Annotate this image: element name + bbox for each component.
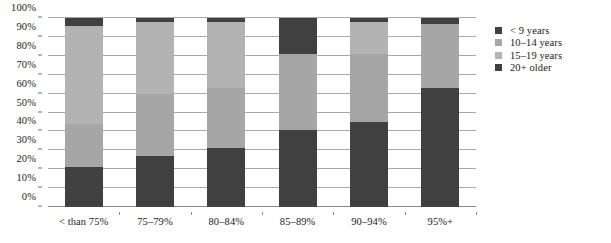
bar-stack: [350, 18, 388, 207]
x-axis: < than 75%75–79%80–84%85–89%90–94%95%+: [48, 212, 476, 232]
stacked-bar-chart: 0%10%20%30%40%50%60%70%80%90%100% < than…: [0, 0, 611, 243]
bar-stack: [136, 18, 174, 207]
y-axis-tick-mark: [38, 35, 42, 36]
legend-swatch-icon: [495, 27, 502, 34]
bar-column: [65, 18, 103, 207]
x-axis-tick-mark: [119, 212, 120, 215]
y-axis-tick-label: 90%: [16, 20, 36, 31]
bar-segment: [421, 18, 459, 24]
legend-item[interactable]: 15–19 years: [495, 49, 607, 62]
bar-segment: [350, 18, 388, 22]
bar-segment: [65, 26, 103, 124]
bar-stack: [421, 18, 459, 207]
legend-item-label: 15–19 years: [510, 50, 562, 61]
bar-segment: [421, 24, 459, 88]
legend-item-label: 20+ older: [510, 62, 552, 73]
y-axis-tick-mark: [38, 73, 42, 74]
y-axis-tick-label: 80%: [16, 39, 36, 50]
bar-segment: [207, 88, 245, 148]
legend-swatch-icon: [495, 39, 502, 46]
bar-column: [136, 18, 174, 207]
bar-stack: [279, 18, 317, 207]
bar-segment: [421, 88, 459, 207]
bar-segment: [279, 18, 317, 54]
y-axis-tick-label: 70%: [16, 58, 36, 69]
y-axis-tick-label: 0%: [22, 191, 36, 202]
legend-item-label: 10–14 years: [510, 37, 562, 48]
bar-segment: [136, 94, 174, 156]
y-axis-tick-mark: [38, 17, 42, 18]
bar-segment: [207, 18, 245, 22]
y-axis-tick-label: 100%: [11, 2, 36, 13]
bar-segment: [136, 156, 174, 207]
plot-area: [48, 18, 476, 207]
y-axis-tick-mark: [38, 54, 42, 55]
bar-segment: [65, 167, 103, 207]
y-axis-tick-mark: [38, 111, 42, 112]
y-axis-tick-mark: [38, 92, 42, 93]
bar-segment: [65, 124, 103, 167]
bar-stack: [207, 18, 245, 207]
y-axis-tick-label: 50%: [16, 96, 36, 107]
bar-segment: [136, 22, 174, 94]
legend-item[interactable]: < 9 years: [495, 24, 607, 37]
bar-segment: [279, 130, 317, 207]
x-axis-tick-mark: [333, 212, 334, 215]
y-axis-tick-mark: [38, 130, 42, 131]
y-axis-tick-mark: [38, 187, 42, 188]
legend-swatch-icon: [495, 52, 502, 59]
x-axis-tick-label: 95%+: [428, 216, 454, 227]
x-axis-tick-mark: [405, 212, 406, 215]
bar-column: [279, 18, 317, 207]
y-axis-tick-label: 30%: [16, 134, 36, 145]
y-axis-tick-label: 20%: [16, 153, 36, 164]
bar-series-group: [48, 18, 476, 207]
x-axis-tick-label: 85–89%: [280, 216, 316, 227]
bar-column: [350, 18, 388, 207]
y-axis-tick-mark: [38, 149, 42, 150]
legend-item[interactable]: 10–14 years: [495, 37, 607, 50]
chart-legend: < 9 years10–14 years15–19 years20+ older: [495, 24, 607, 74]
x-axis-tick-label: 90–94%: [351, 216, 387, 227]
x-axis-tick-label: 75–79%: [137, 216, 173, 227]
bar-column: [207, 18, 245, 207]
y-axis: 0%10%20%30%40%50%60%70%80%90%100%: [0, 18, 42, 207]
y-axis-tick-label: 40%: [16, 115, 36, 126]
bar-segment: [207, 22, 245, 88]
legend-swatch-icon: [495, 64, 502, 71]
y-axis-tick-mark: [38, 206, 42, 207]
legend-item-label: < 9 years: [510, 25, 549, 36]
x-axis-tick-mark: [191, 212, 192, 215]
x-axis-tick-label: 80–84%: [209, 216, 245, 227]
bar-segment: [350, 54, 388, 122]
bar-segment: [65, 18, 103, 26]
bar-segment: [350, 22, 388, 54]
legend-item[interactable]: 20+ older: [495, 62, 607, 75]
x-axis-tick-mark: [262, 212, 263, 215]
x-axis-tick-mark: [476, 212, 477, 215]
bar-segment: [207, 148, 245, 207]
bar-column: [421, 18, 459, 207]
y-axis-tick-label: 10%: [16, 172, 36, 183]
y-axis-tick-mark: [38, 168, 42, 169]
y-axis-tick-label: 60%: [16, 77, 36, 88]
bar-stack: [65, 18, 103, 207]
x-axis-tick-label: < than 75%: [59, 216, 109, 227]
bar-segment: [279, 54, 317, 130]
bar-segment: [136, 18, 174, 22]
bar-segment: [350, 122, 388, 207]
